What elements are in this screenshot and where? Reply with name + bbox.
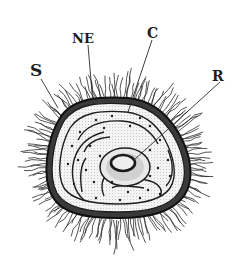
band-dot bbox=[99, 155, 101, 157]
band-dot bbox=[139, 197, 141, 199]
band-dot bbox=[73, 183, 75, 185]
band-dot bbox=[85, 169, 87, 171]
band-dot bbox=[129, 125, 131, 127]
band-dot bbox=[71, 145, 73, 147]
fringe-hair bbox=[123, 219, 128, 238]
fringe-hair bbox=[21, 149, 52, 152]
band-dot bbox=[95, 197, 97, 199]
fringe-hair bbox=[147, 215, 157, 231]
label-NE: NE bbox=[72, 31, 94, 46]
band-dot bbox=[169, 175, 171, 177]
band-dot bbox=[79, 131, 81, 133]
band-dot bbox=[67, 163, 69, 165]
label-C: C bbox=[147, 25, 158, 41]
band-dot bbox=[111, 181, 113, 183]
fringe-hair bbox=[118, 217, 121, 240]
cross-section-illustration: S NE C R bbox=[0, 0, 240, 266]
band-dot bbox=[149, 125, 151, 127]
fringe-hair bbox=[131, 218, 136, 237]
band-dot bbox=[139, 117, 141, 119]
band-dot bbox=[149, 149, 151, 151]
band-dot bbox=[157, 167, 159, 169]
fringe-hair bbox=[128, 218, 134, 251]
band-dot bbox=[159, 139, 161, 141]
fringe-hair bbox=[127, 68, 132, 100]
band-dot bbox=[167, 159, 169, 161]
band-dot bbox=[89, 145, 91, 147]
band-dot bbox=[77, 159, 79, 161]
band-dot bbox=[159, 193, 161, 195]
nucleus bbox=[111, 155, 135, 171]
band-dot bbox=[119, 199, 121, 201]
fringe-hair bbox=[179, 128, 199, 135]
band-dot bbox=[147, 189, 149, 191]
leader-line-S bbox=[41, 79, 58, 108]
band-dot bbox=[95, 119, 97, 121]
band-dot bbox=[103, 127, 105, 129]
fringe-hair bbox=[97, 218, 100, 237]
label-S: S bbox=[30, 60, 42, 80]
fringe-hair bbox=[109, 77, 111, 99]
band-dot bbox=[93, 181, 95, 183]
band-dot bbox=[149, 175, 151, 177]
band-dot bbox=[111, 115, 113, 117]
fringe-hair bbox=[81, 214, 91, 240]
fringe-hair bbox=[140, 215, 144, 235]
label-R: R bbox=[212, 68, 224, 84]
band-dot bbox=[127, 191, 129, 193]
